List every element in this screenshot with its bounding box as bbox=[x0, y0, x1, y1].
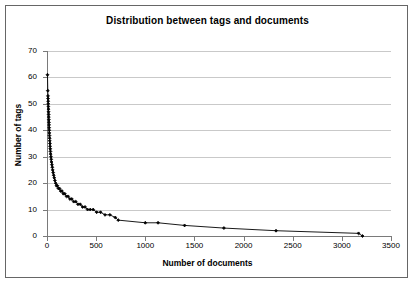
chart-screenshot: Distribution between tags and documents … bbox=[0, 0, 415, 285]
data-series-layer bbox=[6, 6, 409, 279]
series-markers bbox=[46, 73, 364, 237]
series-line bbox=[47, 75, 362, 236]
figure-frame: Distribution between tags and documents … bbox=[5, 5, 408, 278]
